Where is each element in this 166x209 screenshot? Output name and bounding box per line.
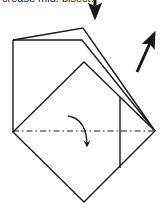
lift-up-arrow-icon <box>137 34 154 72</box>
diamond-outline <box>13 62 155 202</box>
origami-diagram <box>0 0 166 209</box>
